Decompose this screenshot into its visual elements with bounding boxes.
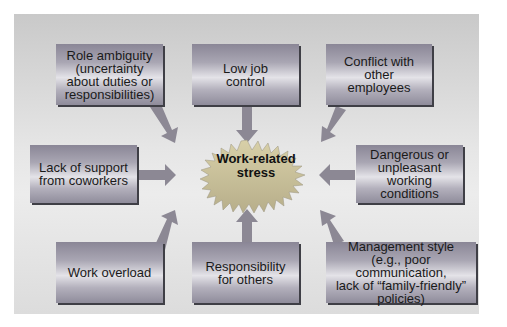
cause-text-line: unpleasant working <box>356 161 463 187</box>
arrow-lack-support <box>138 164 176 186</box>
cause-box-lack-of-support: Lack of support from coworkers <box>30 145 137 203</box>
cause-box-management-style: Management style (e.g., poor communicati… <box>326 242 476 303</box>
arrow-responsibility <box>236 209 258 245</box>
cause-box-work-overload: Work overload <box>56 242 163 303</box>
arrow-dangerous <box>319 164 355 186</box>
cause-text-line: control <box>223 75 268 88</box>
cause-text-line: (e.g., poor communication, <box>326 253 476 279</box>
arrow-conflict <box>321 106 346 142</box>
cause-text-line: Responsibility <box>205 260 285 273</box>
cause-text-line: for others <box>205 273 285 286</box>
cause-text-line: employees <box>344 81 414 94</box>
center-label: Work-related stress <box>212 152 300 180</box>
cause-box-responsibility: Responsibility for others <box>192 242 299 303</box>
cause-text-line: Work overload <box>68 266 152 279</box>
cause-box-dangerous-conditions: Dangerous or unpleasant working conditio… <box>356 145 463 203</box>
cause-box-conflict: Conflict with other employees <box>326 44 432 105</box>
center-label-line1: Work-related <box>212 152 300 166</box>
cause-box-role-ambiguity: Role ambiguity (uncertainty about duties… <box>56 44 163 105</box>
arrow-role-ambiguity <box>150 102 178 143</box>
arrow-low-job-control <box>236 105 258 143</box>
cause-text-line: (uncertainty <box>65 62 155 75</box>
center-label-line2: stress <box>212 166 300 180</box>
cause-text-line: conditions <box>356 187 463 200</box>
cause-text-line: Role ambiguity <box>65 49 155 62</box>
cause-text-line: responsibilities) <box>65 88 155 101</box>
cause-text-line: Low job <box>223 62 268 75</box>
cause-box-low-job-control: Low job control <box>192 44 299 105</box>
cause-text-line: from coworkers <box>39 174 128 187</box>
cause-text-line: policies) <box>326 292 476 305</box>
cause-text-line: about duties or <box>65 75 155 88</box>
